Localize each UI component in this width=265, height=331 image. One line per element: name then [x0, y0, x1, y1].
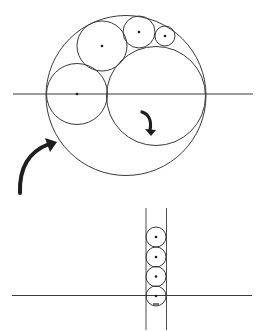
center-point: [155, 295, 158, 298]
center-point: [155, 236, 158, 239]
center-point: [164, 35, 167, 38]
center-point: [155, 275, 158, 278]
transition-arrow-shaft: [20, 144, 49, 193]
rotation-arrowhead-icon: [145, 129, 156, 136]
pappus-chain-diagram: [0, 0, 265, 331]
bottom-figure: [12, 208, 252, 330]
transition-arrow-icon: [20, 138, 57, 193]
top-figure: [13, 16, 253, 176]
center-point: [101, 45, 104, 48]
rotation-arrow-icon: [142, 112, 151, 130]
center-point: [155, 256, 158, 259]
center-point: [76, 93, 79, 96]
diagram-canvas: [0, 0, 265, 331]
center-point: [138, 31, 141, 34]
